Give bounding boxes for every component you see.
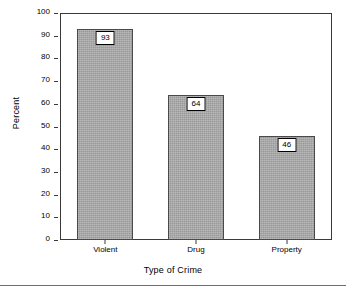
y-axis-tick-mark	[54, 240, 58, 241]
y-axis-tick-label: 40	[41, 143, 50, 153]
y-axis-tick-label: 100	[37, 7, 50, 17]
x-axis-tick-mark	[286, 240, 287, 244]
y-axis-tick-label: 20	[41, 189, 50, 199]
y-axis-tick-mark	[54, 149, 58, 150]
y-axis-tick-mark	[54, 127, 58, 128]
bar-value-label: 46	[277, 138, 296, 152]
y-axis-tick-label: 70	[41, 75, 50, 85]
y-axis-tick-label: 0	[46, 234, 50, 244]
y-axis-tick-mark	[54, 36, 58, 37]
y-axis-tick-mark	[54, 217, 58, 218]
bar-chart-figure: Percent 0102030405060708090100 936446 Vi…	[0, 0, 346, 297]
bar-drug	[168, 95, 224, 240]
y-axis-tick-mark	[54, 81, 58, 82]
y-axis-tick-mark	[54, 172, 58, 173]
y-axis-tick-mark	[54, 58, 58, 59]
y-axis-tick-mark	[54, 195, 58, 196]
bar-violent	[77, 29, 133, 240]
y-axis-title: Percent	[11, 73, 21, 153]
footer-divider	[0, 285, 346, 286]
x-axis-title: Type of Crime	[0, 265, 346, 275]
x-axis-tick-mark	[105, 240, 106, 244]
x-axis-category-label: Property	[272, 245, 302, 255]
y-axis-tick-label: 10	[41, 211, 50, 221]
y-axis-tick-label: 50	[41, 121, 50, 131]
y-axis-tick-label: 60	[41, 98, 50, 108]
y-axis-tick-mark	[54, 13, 58, 14]
x-axis-tick-mark	[196, 240, 197, 244]
y-axis-tick-mark	[54, 104, 58, 105]
bar-value-label: 93	[96, 31, 115, 45]
y-axis-tick-label: 30	[41, 166, 50, 176]
x-axis-category-label: Drug	[187, 245, 204, 255]
bars-layer: 936446	[60, 13, 332, 240]
y-axis-tick-label: 80	[41, 52, 50, 62]
y-axis-tick-label: 90	[41, 30, 50, 40]
x-axis-category-label: Violent	[93, 245, 117, 255]
bar-value-label: 64	[187, 97, 206, 111]
